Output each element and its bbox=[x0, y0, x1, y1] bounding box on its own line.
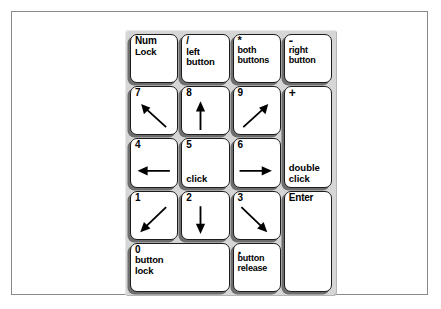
key-0-button-lock[interactable]: 0 button lock bbox=[130, 243, 230, 292]
arrow-down-icon bbox=[182, 201, 228, 239]
arrow-down-right-icon bbox=[234, 201, 280, 239]
key-multiply-label-1: both bbox=[238, 45, 278, 55]
key-minus-right-button[interactable]: - right button bbox=[284, 34, 332, 83]
key-period-button-release[interactable]: . button release bbox=[233, 243, 281, 292]
key-6-move-right[interactable]: 6 bbox=[233, 138, 281, 187]
key-multiply-both-buttons[interactable]: * both buttons bbox=[233, 34, 281, 83]
key-period-label-1: button bbox=[238, 253, 278, 263]
key-5-label: 5 bbox=[186, 140, 226, 151]
key-plus-caption: double click bbox=[289, 163, 329, 184]
key-4-move-left[interactable]: 4 bbox=[130, 138, 178, 187]
key-plus-label-2: click bbox=[289, 174, 329, 185]
arrow-right-icon bbox=[234, 148, 280, 186]
key-num-lock[interactable]: Num Lock bbox=[130, 34, 178, 83]
keypad-key-grid: Num Lock / left button * both butt bbox=[130, 34, 332, 292]
key-minus-label-1: right bbox=[289, 45, 329, 55]
key-num-lock-label-1: Num bbox=[135, 36, 175, 47]
key-enter[interactable]: Enter bbox=[284, 191, 332, 292]
key-0-label-2: lock bbox=[135, 266, 227, 277]
key-divide-left-button[interactable]: / left button bbox=[181, 34, 229, 83]
minus-icon: - bbox=[289, 36, 329, 45]
numeric-keypad: Num Lock / left button * both butt bbox=[125, 30, 337, 296]
diagram-page: Num Lock / left button * both butt bbox=[0, 0, 441, 309]
key-5-caption: click bbox=[186, 174, 226, 185]
key-1-move-down-left[interactable]: 1 bbox=[130, 191, 178, 240]
arrow-down-left-icon bbox=[131, 201, 177, 239]
key-num-lock-label-2: Lock bbox=[135, 47, 175, 58]
key-multiply-label-2: buttons bbox=[238, 55, 278, 65]
arrow-left-icon bbox=[131, 148, 177, 186]
page-frame-border: Num Lock / left button * both butt bbox=[11, 11, 428, 295]
arrow-up-icon bbox=[182, 96, 228, 134]
key-5-action-label: click bbox=[186, 174, 226, 185]
period-dot-icon: . bbox=[238, 245, 278, 253]
key-period-label-2: release bbox=[238, 263, 278, 273]
key-divide-symbol: / bbox=[186, 36, 226, 47]
key-3-move-down-right[interactable]: 3 bbox=[233, 191, 281, 240]
key-enter-label: Enter bbox=[289, 193, 329, 204]
key-divide-label-2: button bbox=[186, 57, 226, 68]
key-5-click[interactable]: 5 click bbox=[181, 138, 229, 187]
key-plus-double-click[interactable]: + double click bbox=[284, 86, 332, 187]
key-2-move-down[interactable]: 2 bbox=[181, 191, 229, 240]
key-9-move-up-right[interactable]: 9 bbox=[233, 86, 281, 135]
key-7-move-up-left[interactable]: 7 bbox=[130, 86, 178, 135]
key-minus-label-2: button bbox=[289, 55, 329, 65]
plus-icon: + bbox=[289, 88, 329, 98]
key-8-move-up[interactable]: 8 bbox=[181, 86, 229, 135]
arrow-up-left-icon bbox=[131, 96, 177, 134]
asterisk-icon: * bbox=[238, 36, 278, 45]
arrow-up-right-icon bbox=[234, 96, 280, 134]
